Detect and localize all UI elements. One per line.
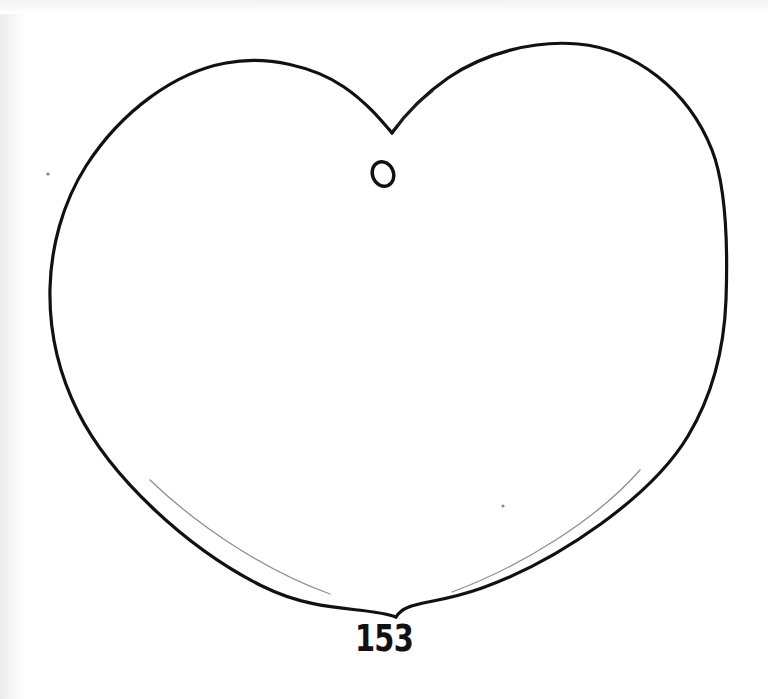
lower-left-double-stroke: [150, 480, 330, 594]
heart-outline-drawing: [0, 0, 768, 699]
heart-outline-path-right: [392, 43, 727, 617]
scan-speck: [502, 505, 505, 508]
scan-speck: [46, 172, 49, 175]
lower-right-double-stroke: [452, 470, 640, 592]
heart-outline-path: [50, 60, 396, 617]
figure-page: 153: [0, 0, 768, 699]
heart-cleft-double-stroke: [392, 91, 433, 131]
inner-oval-mark-icon: [369, 158, 398, 189]
figure-caption-number: 153: [84, 620, 683, 657]
